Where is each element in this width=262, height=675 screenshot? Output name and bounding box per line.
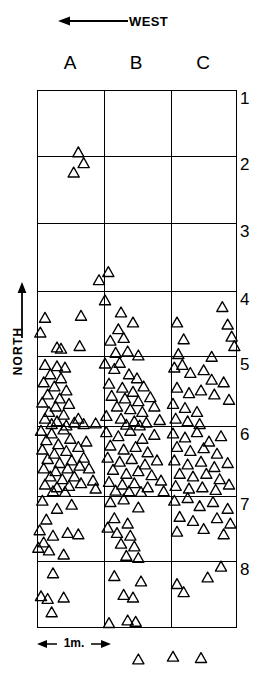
- artifact-triangle: [195, 653, 206, 663]
- row-number-2: 2: [240, 156, 249, 173]
- artifact-triangle: [167, 651, 178, 661]
- row-number-8: 8: [240, 561, 249, 578]
- column-header-c: C: [170, 52, 236, 74]
- scale-bar-label: 1m.: [57, 634, 91, 652]
- column-header-b: B: [103, 52, 169, 74]
- row-number-3: 3: [240, 223, 249, 240]
- excavation-grid: [37, 90, 237, 628]
- arrow-left-icon: [58, 14, 128, 28]
- north-label: NORTH: [11, 319, 25, 383]
- grid-row-divider-7: [38, 561, 236, 562]
- grid-row-divider-5: [38, 426, 236, 427]
- artifact-triangle: [133, 654, 144, 664]
- grid-row-divider-2: [38, 223, 236, 224]
- grid-row-divider-3: [38, 291, 236, 292]
- grid-row-divider-1: [38, 156, 236, 157]
- grid-row-divider-6: [38, 496, 236, 497]
- row-number-6: 6: [240, 426, 249, 443]
- north-direction-indicator: NORTH: [2, 282, 34, 442]
- row-number-4: 4: [240, 291, 249, 308]
- column-header-a: A: [37, 52, 103, 74]
- row-number-labels: 1 2 3 4 5 6 7 8: [240, 90, 262, 630]
- scale-bar: 1m.: [37, 634, 111, 654]
- grid-column-divider-ab: [104, 91, 105, 627]
- row-number-5: 5: [240, 356, 249, 373]
- west-label: WEST: [129, 14, 168, 29]
- column-headers: A B C: [37, 52, 237, 80]
- row-number-7: 7: [240, 496, 249, 513]
- grid-column-divider-bc: [171, 91, 172, 627]
- west-direction-indicator: WEST: [58, 10, 178, 32]
- grid-row-divider-4: [38, 356, 236, 357]
- row-number-1: 1: [240, 90, 249, 107]
